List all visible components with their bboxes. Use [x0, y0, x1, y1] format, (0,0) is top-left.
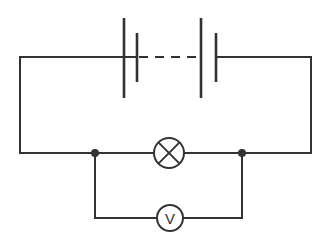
circuit-diagram-canvas: V: [0, 0, 330, 239]
voltmeter-symbol: V: [157, 205, 183, 231]
circuit-schematic: V: [0, 0, 330, 239]
battery-cell-2: [201, 18, 216, 98]
lamp-symbol: [154, 138, 184, 168]
voltmeter-label: V: [165, 210, 175, 227]
battery-symbol: [124, 18, 216, 98]
